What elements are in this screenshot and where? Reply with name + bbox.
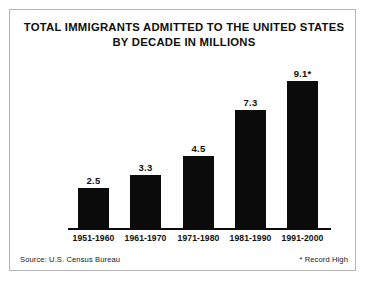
chart-figure: TOTAL IMMIGRANTS ADMITTED TO THE UNITED … [0,0,368,285]
bar-1951-1960 [78,188,109,229]
x-axis-label-1981-1990: 1981-1990 [224,233,277,243]
x-axis-label-1971-1980: 1971-1980 [172,233,225,243]
x-axis-label-1951-1960: 1951-1960 [67,233,120,243]
bar-value-label-1971-1980: 4.5 [171,143,226,154]
record-high-note: * Record High [299,255,348,264]
bar-value-label-1981-1990: 7.3 [223,97,278,108]
bar-1991-2000 [287,81,318,229]
source-label: Source: U.S. Census Bureau [20,255,120,264]
bar-1961-1970 [130,175,161,229]
bar-1981-1990 [235,110,266,229]
bar-value-label-1951-1960: 2.5 [66,175,121,186]
bar-1971-1980 [183,156,214,229]
bar-value-label-1991-2000: 9.1* [275,68,330,79]
plot-area: 2.51951-19603.31961-19704.51971-19807.31… [0,0,368,285]
bar-value-label-1961-1970: 3.3 [118,162,173,173]
x-axis-label-1991-2000: 1991-2000 [276,233,329,243]
x-axis-label-1961-1970: 1961-1970 [119,233,172,243]
